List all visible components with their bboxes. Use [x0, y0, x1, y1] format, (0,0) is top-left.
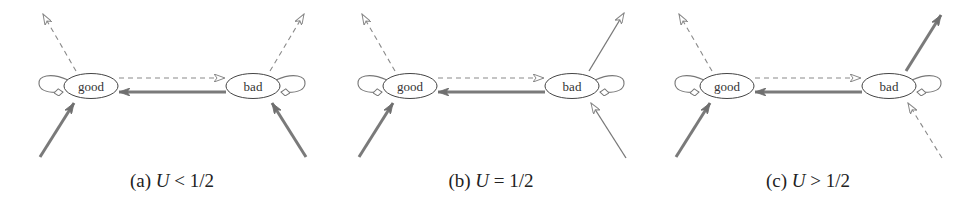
good-out-edge: [679, 14, 712, 71]
bad-self-loop: [276, 76, 305, 93]
bad-node-label: bad: [880, 79, 899, 94]
bad-self-loop: [912, 76, 941, 93]
bad-out-edge: [906, 15, 941, 71]
caption-a: (a) U < 1/2: [92, 170, 252, 194]
bad-in-edge: [272, 103, 306, 157]
caption-tag: (b): [448, 170, 470, 191]
caption-relation: >: [810, 170, 821, 191]
panel-c: good bad: [675, 14, 942, 158]
bad-out-edge: [270, 14, 304, 71]
good-in-edge: [676, 103, 710, 157]
good-node-label: good: [714, 79, 741, 94]
good-out-edge: [43, 14, 76, 71]
caption-value: 1/2: [826, 170, 850, 191]
bad-self-loop: [595, 76, 624, 93]
good-in-edge: [359, 103, 393, 157]
caption-variable: U: [475, 170, 489, 191]
good-self-loop: [358, 76, 387, 93]
caption-value: 1/2: [190, 170, 214, 191]
bad-node-label: bad: [563, 79, 582, 94]
panel-b: good bad: [358, 13, 626, 158]
good-node-label: good: [397, 79, 424, 94]
caption-tag: (c): [766, 170, 787, 191]
caption-c: (c) U > 1/2: [728, 170, 888, 194]
caption-variable: U: [792, 170, 806, 191]
bad-node-label: bad: [244, 79, 263, 94]
panel-a: good bad: [39, 14, 306, 157]
good-self-loop: [675, 76, 704, 93]
bad-in-edge: [908, 103, 942, 158]
caption-relation: =: [494, 170, 505, 191]
good-in-edge: [40, 103, 74, 157]
good-self-loop: [39, 76, 68, 93]
bad-out-edge: [589, 13, 624, 71]
caption-relation: <: [174, 170, 185, 191]
good-out-edge: [362, 14, 395, 71]
caption-tag: (a): [130, 170, 151, 191]
good-node-label: good: [78, 79, 105, 94]
caption-b: (b) U = 1/2: [411, 170, 571, 194]
caption-value: 1/2: [509, 170, 533, 191]
bad-in-edge: [591, 103, 626, 158]
caption-variable: U: [156, 170, 170, 191]
